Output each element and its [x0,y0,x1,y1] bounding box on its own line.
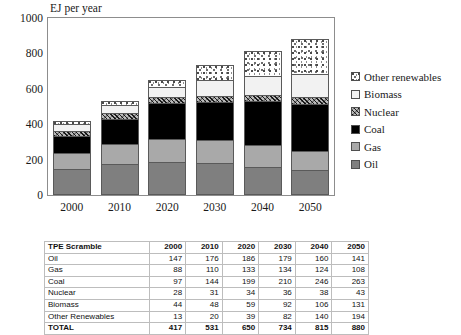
bar-segment-other-renewables-2040[interactable] [244,51,282,76]
table-cell: 106 [295,299,332,311]
bar-2040[interactable] [244,51,282,195]
bar-2010[interactable] [101,101,139,195]
bar-segment-biomass-2000[interactable] [53,124,91,132]
bar-segment-gas-2030[interactable] [196,140,234,164]
bar-segment-oil-2010[interactable] [101,164,139,195]
legend-swatch-icon-gas [351,142,360,151]
legend-item-coal[interactable]: Coal [351,121,459,139]
y-tick-label-1000: 1000 [0,12,43,24]
bar-segment-biomass-2010[interactable] [101,105,139,113]
legend-swatch-icon-other-renewables [351,72,360,81]
table-cell: 31 [186,288,223,300]
bar-segment-oil-2020[interactable] [148,162,186,195]
table-row-label: Biomass [45,299,150,311]
table-cell: 88 [149,265,186,277]
bar-segment-oil-2040[interactable] [244,167,282,195]
stacked-bar-chart: EJ per year 10008006004002000 2000201020… [0,0,461,238]
table-cell: 160 [295,253,332,265]
bar-segment-oil-2000[interactable] [53,169,91,195]
bar-segment-coal-2020[interactable] [148,103,186,138]
table-cell: 147 [149,253,186,265]
legend-item-biomass[interactable]: Biomass [351,86,459,104]
bar-segment-coal-2040[interactable] [244,101,282,145]
table-cell: 110 [186,265,223,277]
bars-layer [48,18,334,195]
table-column-header-2030: 2030 [259,242,296,254]
y-tick-label-600: 600 [0,83,43,95]
table-cell: 97 [149,276,186,288]
legend-item-other-renewables[interactable]: Other renewables [351,68,459,86]
legend-swatch-icon-nuclear [351,107,360,116]
legend-swatch-icon-coal [351,125,360,134]
legend-label: Other renewables [364,71,441,83]
bar-2000[interactable] [53,121,91,195]
y-tick-label-200: 200 [0,154,43,166]
table-cell: 134 [259,265,296,277]
table-total-cell: 417 [149,323,186,335]
legend-label: Coal [364,123,385,135]
legend-item-nuclear[interactable]: Nuclear [351,103,459,121]
table-column-header-2010: 2010 [186,242,223,254]
table-row-label: Coal [45,276,150,288]
bar-segment-gas-2020[interactable] [148,139,186,163]
legend-swatch-icon-oil [351,160,360,169]
table-total-cell: 650 [222,323,259,335]
bar-segment-oil-2050[interactable] [291,170,329,195]
x-tick-label-2020: 2020 [144,200,190,214]
table-cell: 34 [222,288,259,300]
legend-swatch-icon-biomass [351,90,360,99]
table-column-header-2020: 2020 [222,242,259,254]
y-tick-label-0: 0 [0,189,43,201]
table-cell: 92 [259,299,296,311]
table-cell: 43 [332,288,369,300]
bar-segment-biomass-2040[interactable] [244,76,282,95]
table-row: Other Renewables13203982140194 [45,311,369,323]
bar-segment-gas-2050[interactable] [291,151,329,170]
table-cell: 131 [332,299,369,311]
legend-item-oil[interactable]: Oil [351,156,459,174]
table-body: Oil147176186179160141Gas8811013313412410… [45,253,369,334]
legend-label: Oil [364,158,378,170]
x-axis: 200020102020203020402050 [48,200,334,220]
table-row: Nuclear283134363843 [45,288,369,300]
table-cell: 48 [186,299,223,311]
bar-segment-other-renewables-2050[interactable] [291,39,329,73]
bar-segment-gas-2000[interactable] [53,153,91,169]
bar-segment-coal-2010[interactable] [101,119,139,144]
bar-segment-coal-2000[interactable] [53,136,91,153]
table-row-label: Nuclear [45,288,150,300]
table-total-cell: 880 [332,323,369,335]
table-total-cell: 734 [259,323,296,335]
x-tick-label-2000: 2000 [49,200,95,214]
legend-item-gas[interactable]: Gas [351,138,459,156]
table-cell: 179 [259,253,296,265]
bar-segment-oil-2030[interactable] [196,163,234,195]
tpe-scramble-table: TPE Scramble 200020102020203020402050 Oi… [44,241,369,335]
bar-segment-biomass-2050[interactable] [291,74,329,97]
x-tick-label-2010: 2010 [97,200,143,214]
bar-segment-nuclear-2050[interactable] [291,97,329,105]
table-cell: 246 [295,276,332,288]
table-cell: 210 [259,276,296,288]
table-cell: 28 [149,288,186,300]
bar-segment-nuclear-2040[interactable] [244,95,282,102]
bar-2050[interactable] [291,39,329,195]
table-total-row: TOTAL417531650734815880 [45,323,369,335]
bar-segment-other-renewables-2020[interactable] [148,80,186,87]
bar-segment-coal-2030[interactable] [196,102,234,139]
bar-2030[interactable] [196,65,234,195]
bar-segment-biomass-2030[interactable] [196,80,234,96]
bar-2020[interactable] [148,80,186,195]
bar-segment-coal-2050[interactable] [291,104,329,151]
bar-segment-gas-2010[interactable] [101,144,139,163]
y-axis: 10008006004002000 [0,10,43,203]
bar-segment-biomass-2020[interactable] [148,87,186,97]
table-row-label: Oil [45,253,150,265]
table-header-row: TPE Scramble 200020102020203020402050 [45,242,369,254]
bar-segment-other-renewables-2030[interactable] [196,65,234,80]
data-table-container: TPE Scramble 200020102020203020402050 Oi… [44,241,369,335]
bar-segment-gas-2040[interactable] [244,145,282,167]
y-tick-label-400: 400 [0,118,43,130]
table-cell: 186 [222,253,259,265]
table-row: Oil147176186179160141 [45,253,369,265]
